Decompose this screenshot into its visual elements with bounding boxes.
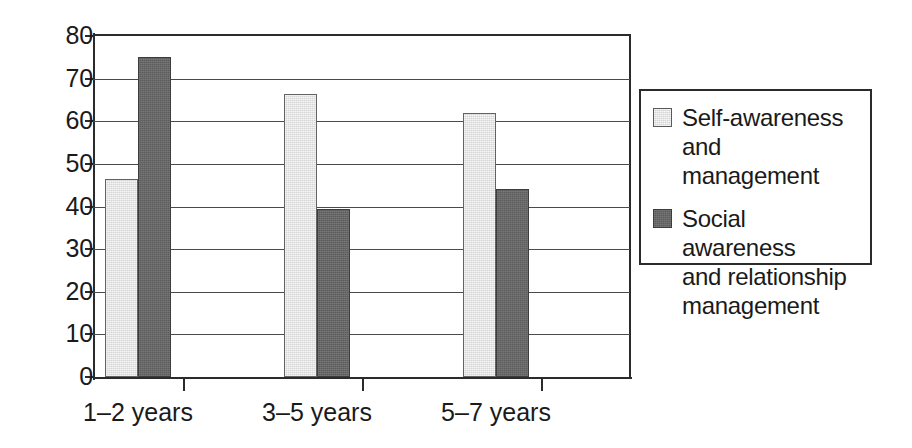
x-axis-category-label: 5–7 years xyxy=(441,398,551,427)
y-axis-tick-label: 20 xyxy=(15,279,93,304)
bar-chart: 01020304050607080 1–2 years3–5 years5–7 … xyxy=(0,0,912,448)
y-axis-tick-label: 80 xyxy=(15,23,93,48)
legend-label-social-awareness: Social awareness and relationship manage… xyxy=(682,204,860,320)
bar xyxy=(284,94,317,377)
y-axis-tick-label: 50 xyxy=(15,151,93,176)
plot-area xyxy=(93,36,630,377)
legend-swatch-dark-icon xyxy=(653,209,672,228)
bar xyxy=(317,209,350,377)
legend-line: Social awareness xyxy=(682,205,795,261)
legend-line: Self-awareness xyxy=(682,104,843,131)
legend-entry-social-awareness: Social awareness and relationship manage… xyxy=(653,204,860,320)
x-axis-tick-mark xyxy=(541,379,543,391)
x-axis-tick-mark xyxy=(362,379,364,391)
y-axis-tick-label: 30 xyxy=(15,236,93,261)
legend-line: and management xyxy=(682,133,819,189)
y-axis-tick-label: 40 xyxy=(15,194,93,219)
gridline xyxy=(93,207,630,208)
legend: Self-awareness and management Social awa… xyxy=(639,89,872,265)
legend-entry-self-awareness: Self-awareness and management xyxy=(653,103,860,190)
y-axis-tick-label: 70 xyxy=(15,66,93,91)
gridline xyxy=(93,249,630,250)
legend-swatch-light-icon xyxy=(653,108,672,127)
bar xyxy=(138,57,171,377)
gridline xyxy=(93,121,630,122)
gridline xyxy=(93,79,630,80)
gridline xyxy=(93,164,630,165)
gridline xyxy=(93,334,630,335)
y-axis-tick-label: 0 xyxy=(15,364,93,389)
y-axis-tick-label: 60 xyxy=(15,108,93,133)
legend-label-self-awareness: Self-awareness and management xyxy=(682,103,860,190)
bar xyxy=(463,113,496,377)
legend-line: management xyxy=(682,292,819,319)
x-axis-category-label: 3–5 years xyxy=(262,398,372,427)
legend-line: and relationship xyxy=(682,263,847,290)
bar xyxy=(105,179,138,377)
gridline xyxy=(93,292,630,293)
x-axis-category-label: 1–2 years xyxy=(83,398,193,427)
y-axis-tick-label: 10 xyxy=(15,321,93,346)
bar xyxy=(496,189,529,377)
x-axis-tick-mark xyxy=(183,379,185,391)
